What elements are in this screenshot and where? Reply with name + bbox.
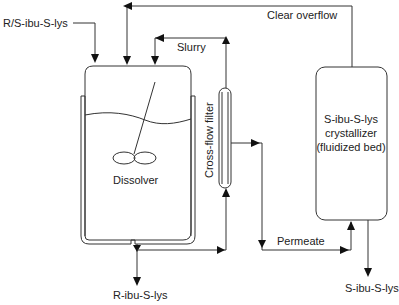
clear-overflow-label: Clear overflow <box>267 9 337 21</box>
arrow-up-icon <box>347 221 355 230</box>
arrow-down-icon <box>133 245 141 252</box>
dissolver-label: Dissolver <box>113 174 159 186</box>
s-product-stream: S-ibu-S-lys <box>345 220 399 294</box>
arrow-right-icon <box>340 246 349 254</box>
arrow-down-icon <box>151 56 159 65</box>
feed-label: R/S-ibu-S-lys <box>3 17 68 29</box>
arrow-down-icon <box>364 268 372 277</box>
permeate-stream: Permeate <box>231 139 355 254</box>
permeate-label: Permeate <box>277 235 325 247</box>
arrow-down-icon <box>123 56 131 65</box>
arrow-up-icon <box>222 36 230 44</box>
r-product-label: R-ibu-S-lys <box>113 289 168 301</box>
s-product-label: S-ibu-S-lys <box>345 282 399 294</box>
crystallizer-label-1: S-ibu-S-lys <box>324 113 378 125</box>
crystallizer-label-2: crystallizer <box>325 127 377 139</box>
arrow-down-icon <box>133 277 141 286</box>
cross-flow-filter: Cross-flow filter <box>203 88 231 188</box>
arrow-left-icon <box>155 34 164 42</box>
crystallizer-vessel: S-ibu-S-lys crystallizer (fluidized bed) <box>316 67 387 220</box>
dissolver-vessel: Dissolver <box>81 66 195 244</box>
arrow-right-icon <box>251 139 260 147</box>
process-flow-diagram: Dissolver Cross-flow filter S-ibu-S-lys … <box>0 0 399 305</box>
slurry-label: Slurry <box>177 41 206 53</box>
arrow-down-icon <box>91 54 99 63</box>
feed-stream: R/S-ibu-S-lys <box>3 17 99 63</box>
arrow-down-icon <box>258 240 266 248</box>
crystallizer-label-3: (fluidized bed) <box>316 141 385 153</box>
arrow-up-icon <box>222 188 230 197</box>
filter-label: Cross-flow filter <box>203 102 215 178</box>
arrow-right-icon <box>217 246 225 254</box>
